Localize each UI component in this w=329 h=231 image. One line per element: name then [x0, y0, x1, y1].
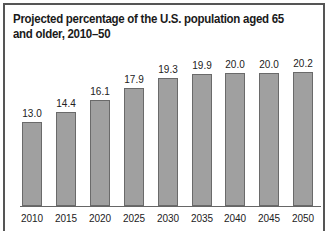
x-tick-label-2040: 2040 — [218, 213, 252, 224]
value-label-2030: 19.3 — [151, 64, 185, 75]
value-label-2040: 20.0 — [218, 59, 252, 70]
bar-2015 — [56, 112, 76, 206]
value-label-2045: 20.0 — [252, 59, 286, 70]
bar-2035 — [192, 74, 212, 206]
x-tick-label-2025: 2025 — [117, 213, 151, 224]
x-axis-line — [20, 206, 321, 207]
bar-2025 — [124, 88, 144, 206]
value-label-2020: 16.1 — [83, 86, 117, 97]
x-tick-label-2030: 2030 — [151, 213, 185, 224]
bar-2030 — [158, 78, 178, 206]
bar-2050 — [293, 72, 313, 206]
value-label-2050: 20.2 — [286, 58, 320, 69]
value-label-2015: 14.4 — [49, 98, 83, 109]
x-tick-label-2010: 2010 — [15, 213, 49, 224]
value-label-2035: 19.9 — [185, 60, 219, 71]
bar-2040 — [225, 73, 245, 206]
value-label-2025: 17.9 — [117, 74, 151, 85]
x-tick-label-2045: 2045 — [252, 213, 286, 224]
bar-2045 — [259, 73, 279, 206]
value-label-2010: 13.0 — [15, 108, 49, 119]
bar-2020 — [90, 100, 110, 206]
x-tick-label-2035: 2035 — [185, 213, 219, 224]
x-tick-label-2020: 2020 — [83, 213, 117, 224]
plot-area: 13.0201014.4201516.1202017.9202519.32030… — [0, 0, 329, 231]
x-tick-label-2050: 2050 — [286, 213, 320, 224]
x-tick-label-2015: 2015 — [49, 213, 83, 224]
bar-2010 — [22, 122, 42, 206]
